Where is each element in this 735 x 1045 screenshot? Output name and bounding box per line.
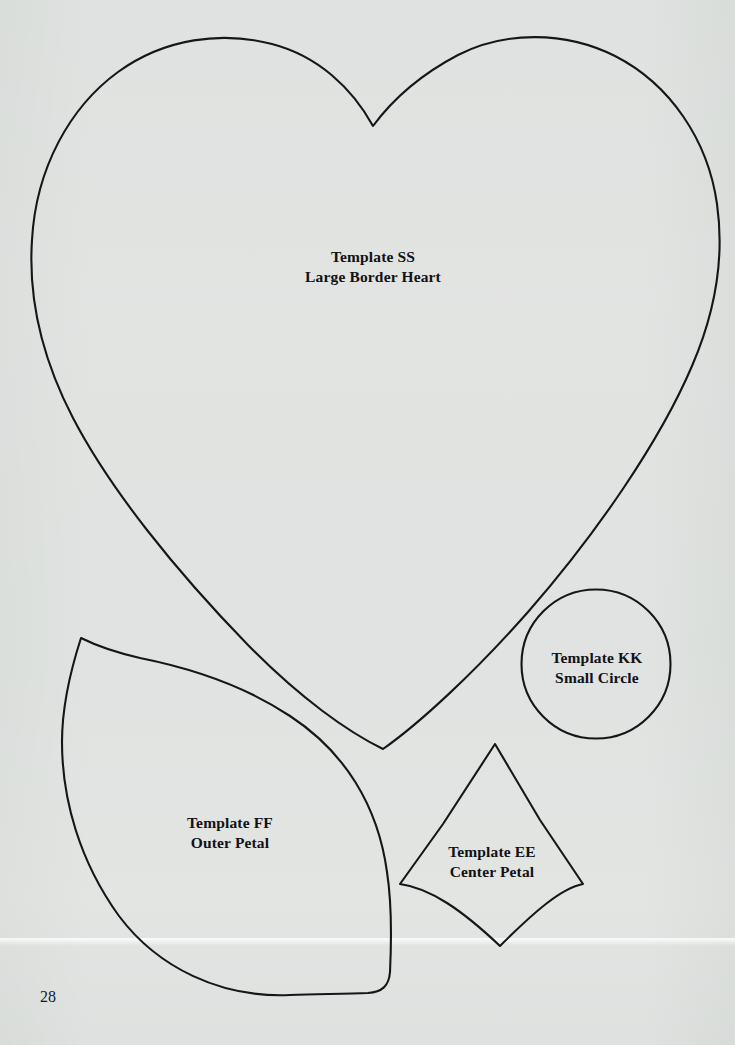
template-page: Template SS Large Border Heart Template …: [0, 0, 735, 1045]
label-template-ss: Template SS Large Border Heart: [305, 247, 441, 288]
label-ff-code: Template FF: [187, 814, 273, 831]
label-ss-code: Template SS: [331, 248, 415, 265]
label-kk-name: Small Circle: [551, 668, 642, 688]
heart-outline-shape: [31, 37, 719, 749]
label-ff-name: Outer Petal: [187, 833, 273, 853]
label-ss-name: Large Border Heart: [305, 267, 441, 287]
page-number: 28: [40, 988, 56, 1006]
label-template-ee: Template EE Center Petal: [448, 842, 536, 883]
label-template-ff: Template FF Outer Petal: [187, 813, 273, 854]
label-kk-code: Template KK: [551, 649, 642, 666]
label-ee-name: Center Petal: [448, 862, 536, 882]
label-ee-code: Template EE: [448, 843, 536, 860]
template-shapes-layer: [0, 0, 735, 1045]
label-template-kk: Template KK Small Circle: [551, 648, 642, 689]
